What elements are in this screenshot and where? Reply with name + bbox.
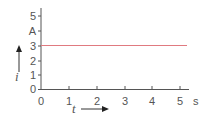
y-tick-label-unit: A — [24, 26, 36, 37]
y-tick-label-1: 1 — [24, 70, 36, 81]
x-tick-label-3: 3 — [119, 96, 131, 107]
x-arrow-head-icon — [102, 106, 109, 112]
y-tick-label-3: 3 — [24, 41, 36, 52]
x-tick-label-0: 0 — [35, 96, 47, 107]
y-axis-label: i — [15, 71, 19, 82]
y-arrow-head-icon — [16, 45, 22, 52]
x-axis-label: t — [72, 103, 76, 114]
y-tick-label-5: 5 — [24, 11, 36, 22]
y-tick-label-2: 2 — [24, 56, 36, 67]
x-ticks — [69, 86, 180, 89]
y-tick-label-0: 0 — [24, 84, 36, 95]
x-unit-label: s — [193, 96, 199, 107]
x-tick-label-2: 2 — [91, 96, 103, 107]
x-tick-label-4: 4 — [146, 96, 158, 107]
x-tick-label-5: 5 — [174, 96, 186, 107]
